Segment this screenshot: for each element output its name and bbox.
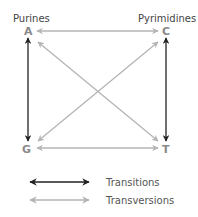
legend-transversions-label: Transversions (105, 195, 174, 206)
mutation-diagram: Purines Pyrimidines A C G T Transitions … (0, 0, 198, 217)
base-c: C (162, 25, 170, 38)
pyrimidines-label: Pyrimidines (138, 13, 196, 24)
purines-label: Purines (13, 13, 50, 24)
base-a: A (24, 25, 33, 38)
base-t: T (162, 143, 170, 156)
legend-transitions-label: Transitions (105, 177, 160, 188)
base-g: G (22, 143, 31, 156)
